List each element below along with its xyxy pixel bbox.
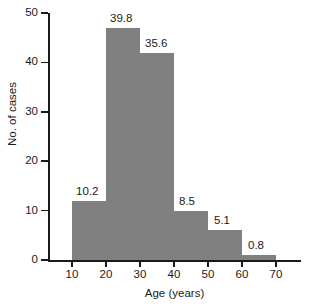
bar-value-label: 10.2: [76, 186, 98, 198]
bar-value-label: 0.8: [248, 240, 264, 252]
x-tick-label: 70: [263, 269, 289, 281]
y-tick-mark: [41, 62, 48, 64]
bar-value-label: 39.8: [110, 13, 132, 25]
x-tick-label: 60: [229, 269, 255, 281]
y-tick-label: 50: [8, 7, 38, 19]
y-tick-label: 0: [8, 254, 38, 266]
y-tick-mark: [41, 210, 48, 212]
histogram-chart: 01020304050 10203040506070 10.239.835.68…: [0, 0, 314, 307]
y-tick-mark: [41, 160, 48, 162]
x-axis-title: Age (years): [48, 287, 301, 299]
bar-value-label: 5.1: [214, 215, 230, 227]
x-tick-label: 20: [93, 269, 119, 281]
x-tick-label: 50: [195, 269, 221, 281]
y-tick-mark: [41, 111, 48, 113]
histogram-bar: [242, 255, 276, 260]
y-axis-title: No. of cases: [6, 64, 18, 164]
y-tick-label: 10: [8, 205, 38, 217]
histogram-bar: [208, 230, 242, 260]
bar-value-label: 35.6: [145, 38, 167, 50]
bar-value-label: 8.5: [179, 196, 195, 208]
y-axis-line: [48, 13, 50, 261]
x-tick-label: 10: [59, 269, 85, 281]
x-tick-label: 30: [127, 269, 153, 281]
x-tick-mark: [71, 260, 73, 267]
histogram-bar: [140, 53, 174, 260]
y-tick-mark: [41, 259, 48, 261]
x-tick-label: 40: [161, 269, 187, 281]
x-tick-mark: [173, 260, 175, 267]
x-tick-mark: [207, 260, 209, 267]
x-tick-mark: [241, 260, 243, 267]
histogram-bar: [106, 28, 140, 260]
histogram-bar: [174, 211, 208, 260]
y-tick-mark: [41, 12, 48, 14]
histogram-bar: [72, 201, 106, 260]
x-tick-mark: [139, 260, 141, 267]
x-tick-mark: [275, 260, 277, 267]
x-tick-mark: [105, 260, 107, 267]
